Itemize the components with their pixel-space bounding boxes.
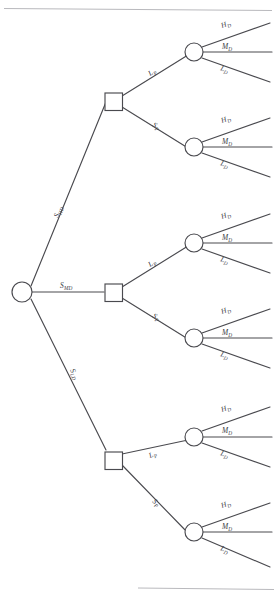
chance-node-md-sp[interactable]	[185, 329, 203, 347]
edge-chance-hd-sp-h[interactable]	[202, 118, 270, 142]
edge-chance-hd-lp-h[interactable]	[202, 23, 270, 47]
bottom-rule	[138, 588, 274, 590]
label-outcome-md-sp-h: HD	[219, 304, 232, 317]
edge-chance-ld-sp-l[interactable]	[202, 538, 270, 567]
group-ld	[105, 407, 272, 567]
root-chance-node[interactable]	[12, 282, 32, 302]
decision-node-hd[interactable]	[105, 93, 123, 111]
chance-node-ld-sp[interactable]	[185, 523, 203, 541]
edge-chance-md-lp-h[interactable]	[202, 214, 270, 238]
group-hd	[105, 23, 272, 177]
label-outcome-md-lp-h: HD	[219, 209, 232, 222]
label-branch-md: SMD	[60, 281, 73, 291]
label-outcome-hd-lp-h: HD	[219, 18, 232, 31]
label-sub-ld-sp: SP	[150, 497, 162, 510]
level1-edges	[31, 102, 106, 450]
label-outcome-hd-sp-h: HD	[219, 113, 232, 126]
edge-root-to-decision-hd[interactable]	[31, 102, 106, 286]
label-outcome-ld-lp-h: HD	[219, 402, 232, 415]
decision-tree-page: SHD SMD SLD LP SP HD MD LD HD MD LD LP S…	[0, 0, 274, 592]
label-sub-ld-lp: LP	[146, 448, 158, 461]
decision-node-md[interactable]	[105, 284, 123, 302]
label-outcome-ld-sp-h: HD	[219, 498, 232, 511]
top-rule	[4, 9, 272, 11]
edge-chance-md-sp-l[interactable]	[202, 344, 270, 368]
edge-chance-ld-lp-h[interactable]	[202, 407, 270, 431]
label-sub-hd-lp: LP	[145, 66, 158, 79]
label-outcome-ld-lp-l: LD	[218, 448, 230, 461]
decision-tree-diagram: SHD SMD SLD LP SP HD MD LD HD MD LD LP S…	[0, 0, 274, 592]
label-outcome-hd-lp-m: MD	[221, 42, 232, 52]
label-sub-md-lp: LP	[145, 257, 158, 270]
label-outcome-md-sp-m: MD	[221, 328, 232, 338]
label-outcome-hd-lp-l: LD	[218, 63, 230, 76]
edge-chance-ld-sp-h[interactable]	[202, 503, 270, 527]
chance-node-hd-lp[interactable]	[185, 43, 203, 61]
chance-node-hd-sp[interactable]	[185, 138, 203, 156]
edge-chance-hd-lp-l[interactable]	[202, 58, 270, 82]
label-outcome-md-sp-l: LD	[218, 349, 230, 362]
label-outcome-hd-sp-m: MD	[221, 137, 232, 147]
level1-labels: SHD SMD SLD	[52, 204, 82, 381]
label-outcome-md-lp-l: LD	[218, 254, 230, 267]
edge-chance-md-sp-h[interactable]	[202, 309, 270, 333]
edge-chance-hd-sp-l[interactable]	[202, 153, 270, 177]
decision-node-ld[interactable]	[105, 452, 123, 470]
label-outcome-hd-sp-l: LD	[218, 158, 230, 171]
edge-chance-md-lp-l[interactable]	[202, 249, 270, 273]
edge-root-to-decision-ld[interactable]	[31, 299, 106, 450]
label-branch-ld: SLD	[67, 367, 81, 381]
label-outcome-ld-lp-m: MD	[221, 426, 232, 436]
chance-node-ld-lp[interactable]	[185, 428, 203, 446]
edge-chance-ld-lp-l[interactable]	[202, 443, 270, 467]
label-outcome-md-lp-m: MD	[221, 233, 232, 243]
group-md	[105, 214, 272, 368]
chance-node-md-lp[interactable]	[185, 234, 203, 252]
label-outcome-ld-sp-m: MD	[221, 522, 232, 532]
